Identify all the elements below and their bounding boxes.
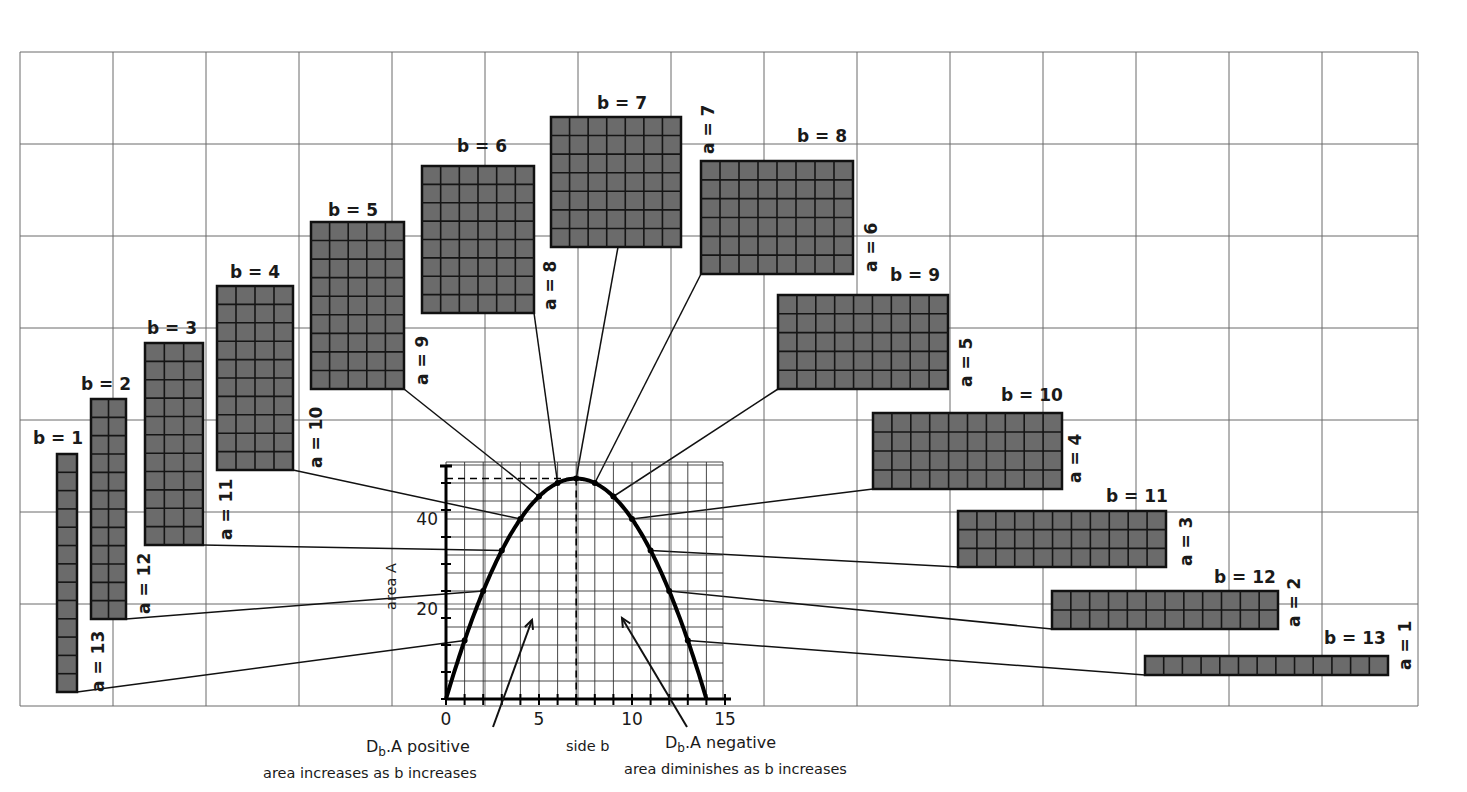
y-axis-label: area A (383, 563, 399, 610)
diagram-canvas: 0510152040 side b area A b = 1a = 13b = … (0, 0, 1467, 792)
curve-point (610, 494, 616, 500)
b-label: b = 10 (1001, 385, 1063, 405)
connector-line (651, 551, 958, 568)
right-derivative-title: Db.A negative (665, 733, 776, 755)
b-label: b = 6 (457, 136, 507, 156)
connector-line (669, 591, 1052, 629)
x-tick-label: 0 (441, 709, 452, 729)
rectangle-shape (958, 511, 1166, 567)
rectangle-b9: b = 9a = 5 (778, 265, 976, 389)
b-label: b = 3 (147, 318, 197, 338)
x-tick-label: 15 (714, 709, 736, 729)
right-d-sub: b (677, 741, 685, 755)
left-caption: area increases as b increases (263, 765, 477, 781)
connector-line (632, 489, 873, 519)
y-tick-label: 20 (416, 599, 438, 619)
left-d: D (366, 737, 378, 756)
connector-line (534, 313, 558, 483)
connector-line (404, 389, 539, 497)
y-tick-label: 40 (416, 509, 438, 529)
b-label: b = 13 (1324, 628, 1386, 648)
curve-point (648, 548, 654, 554)
curve-point (592, 480, 598, 486)
rectangle-shape (551, 117, 681, 247)
b-label: b = 1 (33, 428, 83, 448)
right-d-rest: .A negative (685, 733, 776, 752)
rectangle-shape (1145, 656, 1388, 675)
b-label: b = 8 (797, 126, 847, 146)
b-label: b = 12 (1214, 567, 1276, 587)
connector-line (203, 545, 502, 551)
a-label: a = 4 (1065, 433, 1085, 483)
rectangle-b7: b = 7a = 7 (551, 93, 718, 247)
area-vs-side-diagram: 0510152040 side b area A b = 1a = 13b = … (0, 0, 1467, 792)
a-label: a = 3 (1176, 517, 1196, 566)
rectangle-b5: b = 5a = 9 (311, 200, 432, 389)
a-label: a = 2 (1284, 578, 1304, 627)
rectangle-b11: b = 11a = 3 (958, 486, 1196, 567)
b-label: b = 4 (230, 262, 280, 282)
connector-line (595, 274, 701, 483)
right-caption: area diminishes as b increases (624, 761, 847, 777)
rectangle-b8: b = 8a = 6 (701, 126, 881, 274)
connector-line (77, 641, 465, 693)
rectangle-b12: b = 12a = 2 (1052, 567, 1304, 629)
curve-point (536, 494, 542, 500)
a-label: a = 10 (306, 407, 326, 468)
rectangle-b10: b = 10a = 4 (873, 385, 1085, 489)
a-label: a = 6 (861, 223, 881, 272)
curve-point (573, 476, 579, 482)
left-d-sub: b (378, 745, 386, 759)
x-tick-label: 10 (621, 709, 643, 729)
connector-line (576, 247, 618, 479)
left-d-rest: .A positive (386, 737, 470, 756)
b-label: b = 9 (890, 265, 940, 285)
b-label: b = 5 (328, 200, 378, 220)
rectangle-b2: b = 2a = 12 (81, 374, 154, 619)
a-label: a = 12 (134, 553, 154, 614)
a-label: a = 11 (216, 479, 236, 540)
rectangle-b6: b = 6a = 8 (422, 136, 560, 313)
a-label: a = 1 (1395, 621, 1415, 670)
rectangle-shape (145, 343, 203, 545)
a-label: a = 9 (412, 336, 432, 385)
left-arrow (493, 620, 532, 727)
curve-point (629, 516, 635, 522)
rectangles: b = 1a = 13b = 2a = 12b = 3a = 11b = 4a … (33, 93, 1415, 692)
b-label: b = 11 (1106, 486, 1168, 506)
curve-point (555, 480, 561, 486)
a-label: a = 7 (698, 105, 718, 154)
x-tick-label: 5 (534, 709, 545, 729)
curve-point (499, 548, 505, 554)
rectangle-shape (311, 222, 404, 389)
a-label: a = 5 (956, 338, 976, 387)
connector-line (688, 641, 1145, 676)
curve-point (517, 516, 523, 522)
right-d: D (665, 733, 677, 752)
rectangle-shape (57, 454, 77, 692)
left-derivative-title: Db.A positive (366, 737, 470, 759)
a-label: a = 13 (88, 631, 108, 692)
rectangle-shape (778, 295, 948, 389)
curve-point (666, 588, 672, 594)
b-label: b = 2 (81, 374, 131, 394)
curve-point (480, 588, 486, 594)
x-axis-label: side b (566, 738, 610, 754)
curve-point (685, 638, 691, 644)
a-label: a = 8 (540, 261, 560, 310)
connector-line (613, 389, 778, 497)
rectangle-b4: b = 4a = 10 (217, 262, 326, 470)
b-label: b = 7 (597, 93, 647, 113)
area-graph: 0510152040 side b area A (383, 462, 736, 754)
curve-point (462, 638, 468, 644)
